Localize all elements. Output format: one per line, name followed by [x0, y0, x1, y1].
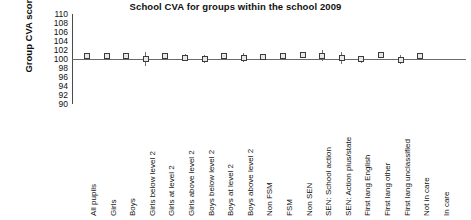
data-marker — [143, 56, 149, 62]
x-tick-label: FSM — [286, 199, 294, 216]
data-marker — [378, 52, 384, 58]
data-marker — [162, 53, 168, 59]
x-tick-label: First lang English — [364, 155, 372, 216]
x-tick-label: Girls — [110, 200, 118, 216]
x-tick-label: Boys — [129, 198, 137, 216]
x-tick-label: Not in care — [423, 177, 431, 216]
x-tick-label: SEN: Action plus/state — [345, 137, 353, 216]
data-marker — [358, 56, 364, 62]
x-tick-label: All pupils — [90, 184, 98, 216]
data-marker — [182, 55, 188, 61]
x-tick-label: SEN: School action — [325, 147, 333, 216]
data-marker — [123, 53, 129, 59]
x-tick-label: Boys at level 2 — [227, 164, 235, 216]
y-tick-label: 90 — [44, 100, 68, 109]
x-tick-label: In care — [443, 192, 451, 216]
data-marker — [280, 53, 286, 59]
reference-line-100 — [72, 59, 466, 60]
data-marker — [417, 53, 423, 59]
data-marker — [104, 53, 110, 59]
y-axis-title: Group CVA score — [23, 0, 34, 82]
x-tick-label: Boys above level 2 — [247, 149, 255, 216]
cva-scatter-chart: School CVA for groups within the school … — [0, 0, 471, 220]
x-tick-label: Boys below level 2 — [208, 150, 216, 216]
x-tick-label: First lang unclassified — [404, 139, 412, 216]
x-tick-label: Girls at level 2 — [168, 165, 176, 216]
x-axis-tick-labels: All pupilsGirlsBoysGirls below level 2Gi… — [72, 104, 466, 220]
x-tick-label: Girls above level 2 — [188, 150, 196, 216]
data-marker — [319, 53, 325, 59]
data-marker — [260, 54, 266, 60]
x-tick-label: Non FSM — [266, 182, 274, 216]
data-marker — [241, 55, 247, 61]
x-tick-label: Girls below level 2 — [149, 151, 157, 216]
y-axis-tick-labels: 1101081061041021009896949290 — [44, 14, 68, 104]
plot-area — [72, 14, 466, 104]
data-marker — [339, 55, 345, 61]
x-tick-label: Non SEN — [306, 183, 314, 216]
x-tick-label: First lang other — [384, 163, 392, 216]
data-marker — [300, 52, 306, 58]
data-marker — [221, 53, 227, 59]
data-marker — [202, 56, 208, 62]
data-marker — [398, 57, 404, 63]
data-marker — [84, 53, 90, 59]
chart-title: School CVA for groups within the school … — [0, 1, 471, 12]
